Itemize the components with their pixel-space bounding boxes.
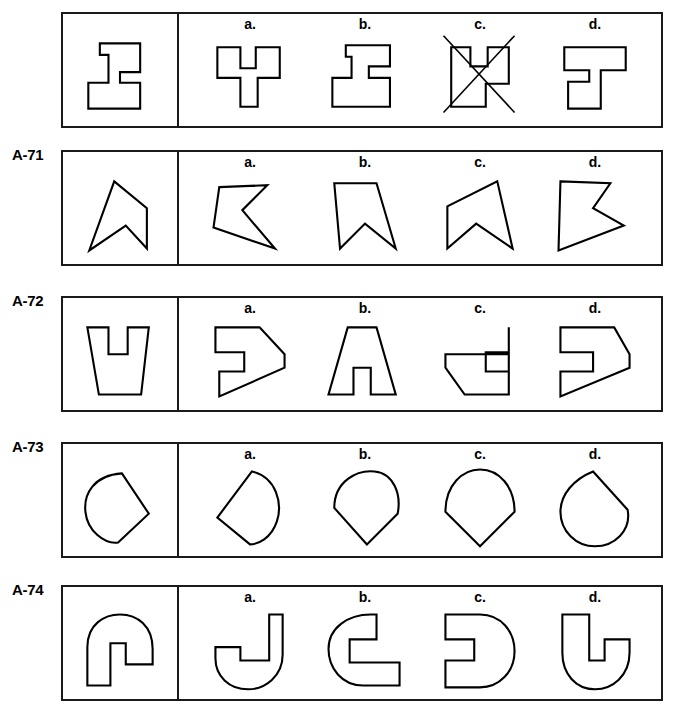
option-cell[interactable]: c.	[421, 444, 539, 556]
option-cell[interactable]: a.	[191, 152, 309, 264]
question-row: a.b.c.d.	[61, 296, 663, 412]
chevron-option-a	[191, 166, 309, 262]
prompt-figure-cell	[63, 298, 177, 410]
option-cell[interactable]: d.	[536, 444, 654, 556]
question-row: a.b.c.d.	[61, 12, 663, 128]
chevron-option-b	[306, 166, 424, 262]
prompt-options-divider	[177, 444, 179, 556]
option-cell[interactable]: a.	[191, 298, 309, 410]
prompt-options-divider	[177, 152, 179, 264]
option-cell[interactable]: a.	[191, 587, 309, 699]
chevron-prompt	[63, 166, 177, 262]
prompt-figure-cell	[63, 444, 177, 556]
option-cell[interactable]: c.	[421, 152, 539, 264]
teardrop-prompt	[63, 458, 177, 554]
prompt-figure-cell	[63, 152, 177, 264]
option-cell[interactable]: b.	[306, 298, 424, 410]
question-number-label: A-71	[12, 146, 60, 163]
option-cell[interactable]: d.	[536, 587, 654, 699]
question-number-label: A-72	[12, 292, 60, 309]
question-row: a.b.c.d.	[61, 442, 663, 558]
question-row: a.b.c.d.	[61, 150, 663, 266]
chevron-option-d	[536, 166, 654, 262]
teardrop-option-a	[191, 458, 309, 554]
u-block-prompt	[63, 312, 177, 408]
prompt-options-divider	[177, 298, 179, 410]
option-cell[interactable]: c.	[421, 14, 539, 126]
question-row: a.b.c.d.	[61, 585, 663, 701]
question-number-label: A-74	[12, 581, 60, 598]
option-cell[interactable]: a.	[191, 14, 309, 126]
option-cell[interactable]: d.	[536, 14, 654, 126]
option-cell[interactable]: d.	[536, 298, 654, 410]
chevron-option-c	[421, 166, 539, 262]
arch-block-option-d	[536, 601, 654, 697]
u-block-option-c	[421, 312, 539, 408]
teardrop-option-d	[536, 458, 654, 554]
z-block-option-b	[306, 28, 424, 124]
arch-block-prompt	[63, 601, 177, 697]
z-block-option-c struck-out	[421, 28, 539, 124]
option-cell[interactable]: b.	[306, 444, 424, 556]
prompt-options-divider	[177, 14, 179, 126]
z-block-prompt	[63, 28, 177, 124]
option-cell[interactable]: c.	[421, 298, 539, 410]
option-cell[interactable]: a.	[191, 444, 309, 556]
question-number-label: A-73	[12, 438, 60, 455]
prompt-options-divider	[177, 587, 179, 699]
teardrop-option-c	[421, 458, 539, 554]
z-block-option-a	[191, 28, 309, 124]
exercise-sheet: a.b.c.d.A-71a.b.c.d.A-72a.b.c.d.A-73a.b.…	[0, 0, 673, 706]
option-cell[interactable]: d.	[536, 152, 654, 264]
option-cell[interactable]: b.	[306, 587, 424, 699]
u-block-option-b	[306, 312, 424, 408]
prompt-figure-cell	[63, 14, 177, 126]
option-cell[interactable]: b.	[306, 14, 424, 126]
prompt-figure-cell	[63, 587, 177, 699]
arch-block-option-c	[421, 601, 539, 697]
u-block-option-a	[191, 312, 309, 408]
u-block-option-d	[536, 312, 654, 408]
arch-block-option-a	[191, 601, 309, 697]
teardrop-option-b	[306, 458, 424, 554]
option-cell[interactable]: c.	[421, 587, 539, 699]
option-cell[interactable]: b.	[306, 152, 424, 264]
arch-block-option-b	[306, 601, 424, 697]
z-block-option-d	[536, 28, 654, 124]
